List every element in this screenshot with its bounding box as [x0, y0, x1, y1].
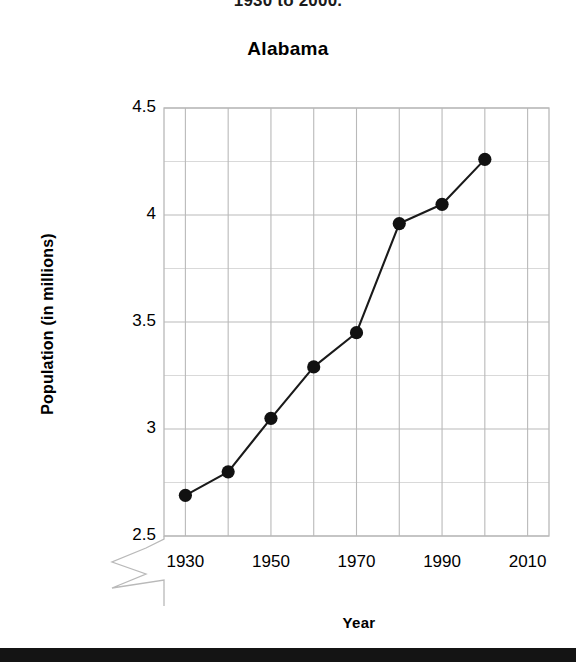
x-tick-label: 1950: [236, 552, 306, 572]
y-tick-label: 2.5: [104, 525, 156, 545]
x-tick-label: 2010: [493, 552, 563, 572]
x-tick-label: 1970: [322, 552, 392, 572]
y-tick-label: 3.5: [104, 311, 156, 331]
data-point-markers: [179, 153, 492, 502]
x-tick-label: 1930: [150, 552, 220, 572]
x-tick-label-group: 19301950197019902010: [0, 552, 576, 582]
x-tick-label: 1990: [407, 552, 477, 572]
y-tick-label-group: 2.533.544.5: [100, 0, 156, 560]
y-tick-label: 3: [104, 418, 156, 438]
x-axis-title: Year: [164, 614, 554, 631]
y-tick-label: 4.5: [104, 97, 156, 117]
page-bottom-bar: [0, 648, 576, 662]
y-tick-label: 4: [104, 204, 156, 224]
